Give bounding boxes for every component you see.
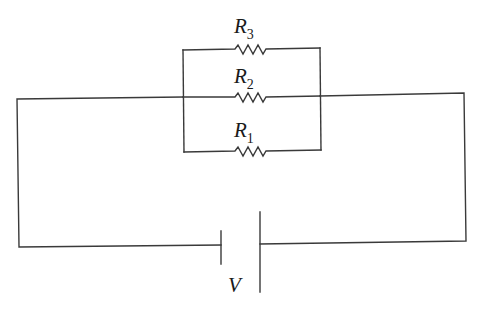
r2-label: R2 <box>233 64 254 92</box>
voltage-label: V <box>228 273 243 297</box>
right-wire <box>260 93 466 244</box>
resistor-r3: R3 <box>183 14 320 54</box>
parallel-left-node <box>183 50 184 152</box>
r1-label: R1 <box>233 118 254 146</box>
battery: V <box>221 212 260 297</box>
parallel-right-node <box>320 48 321 150</box>
outer-loop-wires <box>17 93 466 247</box>
resistor-r1: R1 <box>184 118 321 156</box>
resistor-r2: R2 <box>183 64 320 102</box>
r3-label: R3 <box>233 14 254 42</box>
circuit-diagram: R3 R2 R1 V <box>0 0 477 314</box>
left-wire <box>17 97 221 247</box>
